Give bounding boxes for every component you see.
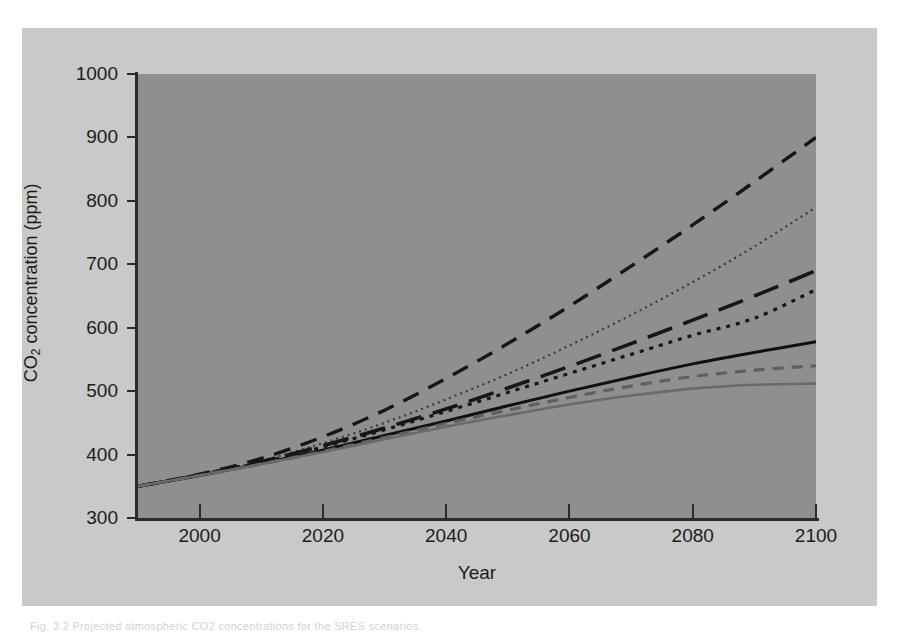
y-tick-label: 400 bbox=[56, 445, 118, 464]
y-tick-label: 900 bbox=[56, 127, 118, 146]
y-tick-label: 600 bbox=[56, 318, 118, 337]
y-tick-mark bbox=[127, 263, 136, 265]
y-tick-mark bbox=[127, 136, 136, 138]
x-tick-label: 2000 bbox=[155, 526, 245, 545]
x-tick-label: 2060 bbox=[524, 526, 614, 545]
x-tick-mark bbox=[445, 504, 447, 518]
y-tick-label: 500 bbox=[56, 381, 118, 400]
y-tick-mark bbox=[127, 390, 136, 392]
co2-projection-chart: 3004005006007008009001000 20002020204020… bbox=[0, 0, 899, 644]
plot-lines-svg bbox=[138, 74, 816, 518]
x-tick-label: 2080 bbox=[648, 526, 738, 545]
x-tick-label: 2100 bbox=[771, 526, 861, 545]
x-tick-mark bbox=[815, 504, 817, 518]
x-tick-mark bbox=[322, 504, 324, 518]
series-line-a1fi bbox=[138, 137, 816, 486]
plot-area bbox=[138, 74, 816, 518]
x-tick-mark bbox=[199, 504, 201, 518]
y-axis-title: CO2 concentration (ppm) bbox=[21, 133, 43, 433]
x-axis-title: Year bbox=[138, 562, 816, 584]
series-line-a1t bbox=[138, 342, 816, 487]
y-tick-mark bbox=[127, 327, 136, 329]
y-axis-title-subscript: 2 bbox=[29, 349, 43, 356]
x-tick-label: 2020 bbox=[278, 526, 368, 545]
x-tick-mark bbox=[568, 504, 570, 518]
x-tick-mark bbox=[692, 504, 694, 518]
series-line-a1b bbox=[138, 271, 816, 487]
y-tick-label: 700 bbox=[56, 254, 118, 273]
x-tick-label: 2040 bbox=[401, 526, 491, 545]
y-tick-label: 300 bbox=[56, 508, 118, 527]
y-tick-mark bbox=[127, 454, 136, 456]
y-tick-mark bbox=[127, 517, 136, 519]
x-axis-spine bbox=[135, 518, 819, 521]
figure-caption: Fig. 3.2 Projected atmospheric CO2 conce… bbox=[30, 620, 870, 632]
series-line-a2 bbox=[138, 207, 816, 486]
y-tick-label: 1000 bbox=[56, 64, 118, 83]
y-tick-mark bbox=[127, 200, 136, 202]
y-tick-label: 800 bbox=[56, 191, 118, 210]
y-tick-mark bbox=[127, 73, 136, 75]
